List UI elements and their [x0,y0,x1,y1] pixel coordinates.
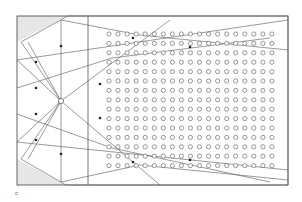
scatterer-dot [225,107,229,111]
ray-line [28,42,61,101]
scatterer-dot [252,154,256,158]
scatterer-dot [234,32,238,36]
scatterer-dot [188,145,192,149]
scatterer-dot [207,88,211,92]
scatterer-dot [107,51,111,55]
scatterer-dot [270,79,274,83]
scatterer-dot [188,126,192,130]
ray-line [28,101,61,159]
scatterer-dot [252,117,256,121]
scatterer-dot [243,154,247,158]
scatterer-dot [179,79,183,83]
scatterer-dot [188,51,192,55]
scatterer-dot [134,88,138,92]
scatterer-dot [225,154,229,158]
scatterer-dot [188,135,192,139]
scatterer-dot [197,41,201,45]
scatterer-dot [152,117,156,121]
scatterer-dot [116,98,120,102]
scatterer-dot [261,32,265,36]
scatterer-dot [252,107,256,111]
scatterer-dot [143,117,147,121]
scatterer-dot [234,164,238,168]
ray-line [17,101,61,142]
scatterer-dot [170,164,174,168]
scatterer-dot [261,70,265,74]
scatterer-dot [270,145,274,149]
scatterer-dot [225,32,229,36]
scatterer-dot [207,32,211,36]
scatterer-dot [216,117,220,121]
scatterer-dot [125,98,129,102]
scatterer-dot [107,164,111,168]
scatterer-dot [225,41,229,45]
scatterer-dot [107,32,111,36]
scatterer-dot [170,60,174,64]
scatterer-dot [152,135,156,139]
scatterer-dot [243,98,247,102]
scatterer-dot [188,107,192,111]
scatterer-dot [125,145,129,149]
scatterer-dot [188,98,192,102]
scatterer-dot [116,145,120,149]
scatterer-dot [116,51,120,55]
scatterer-dot [170,79,174,83]
scatterer-dot [261,164,265,168]
scatterer-dot [179,107,183,111]
scatterer-dot [197,135,201,139]
scatterer-dot [252,164,256,168]
scatterer-dot [261,79,265,83]
scatterer-dot [207,135,211,139]
scatterer-dot [216,88,220,92]
scatterer-dot [270,41,274,45]
scatterer-dot [207,145,211,149]
scatterer-dot [261,88,265,92]
scatterer-dot [125,79,129,83]
scatterer-dot [161,117,165,121]
scatterer-dot [134,41,138,45]
scatterer-dot [134,126,138,130]
scatterer-dot [116,117,120,121]
scatterer-dot [261,60,265,64]
scatterer-dot [161,164,165,168]
ray-diagram [0,0,302,202]
scatterer-dot [143,41,147,45]
ray-line [17,60,61,101]
scatterer-dot [161,145,165,149]
scatterer-dot [261,126,265,130]
scatterer-dot [179,70,183,74]
scatterer-dot [152,79,156,83]
scatterer-dot [188,154,192,158]
scatterer-dot [270,70,274,74]
scatterer-dot [197,154,201,158]
scatterer-dot [207,154,211,158]
panel-label: c [15,190,18,196]
scatterer-dot [188,32,192,36]
scatterer-dot [234,60,238,64]
scatterer-dot [252,51,256,55]
scatterer-dot [207,98,211,102]
scatterer-dot [261,135,265,139]
scatterer-dot [197,98,201,102]
scatterer-dot [143,164,147,168]
scatterer-dot [134,117,138,121]
scatterer-dot [225,70,229,74]
arrow-marker-icon [35,139,38,142]
scatterer-dot [216,41,220,45]
scatterer-dot [170,70,174,74]
scatterer-dot [116,154,120,158]
scatterer-dot [152,126,156,130]
scatterer-dot [207,107,211,111]
scatterer-dot [243,145,247,149]
scatterer-dot [197,32,201,36]
scatterer-dot [116,88,120,92]
scatterer-dot [188,41,192,45]
scatterer-dot [152,60,156,64]
scatterer-dot [143,32,147,36]
scatterer-dot [161,107,165,111]
scatterer-dot [161,88,165,92]
scatterer-dot [252,79,256,83]
scatterer-dot [188,70,192,74]
scatterer-dot [152,164,156,168]
scatterer-dot [170,32,174,36]
